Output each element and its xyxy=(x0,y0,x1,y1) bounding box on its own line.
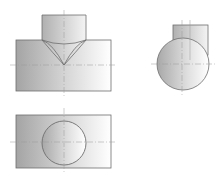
top-view xyxy=(10,108,117,174)
front-view xyxy=(10,10,117,96)
side-view xyxy=(151,20,215,96)
orthographic-drawing xyxy=(0,0,224,181)
